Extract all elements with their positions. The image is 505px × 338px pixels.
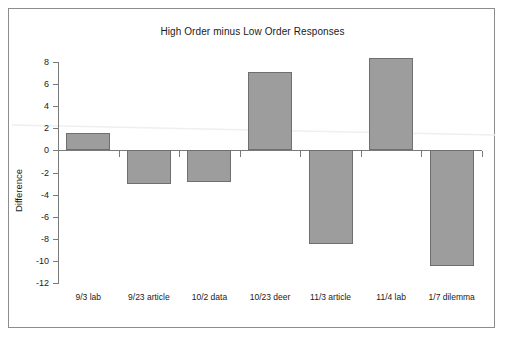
y-axis-tick-label: 0 bbox=[22, 145, 51, 155]
y-axis-tick-label: -12 bbox=[22, 278, 51, 288]
x-axis-tick bbox=[421, 151, 422, 157]
y-axis-tick bbox=[53, 261, 59, 262]
bar bbox=[127, 150, 171, 183]
y-axis-tick bbox=[53, 239, 59, 240]
y-axis-tick bbox=[53, 62, 59, 63]
x-axis-tick-label: 10/2 data bbox=[192, 292, 227, 302]
x-axis-tick bbox=[119, 151, 120, 157]
x-axis-tick-label: 10/23 deer bbox=[250, 292, 291, 302]
y-axis-tick-label: 6 bbox=[22, 79, 51, 89]
y-axis-tick bbox=[53, 84, 59, 85]
x-axis-tick bbox=[300, 151, 301, 157]
y-axis-tick-label: 4 bbox=[22, 101, 51, 111]
x-axis-tick-label: 1/7 dilemma bbox=[429, 292, 475, 302]
y-axis-tick-label: -4 bbox=[22, 190, 51, 200]
bar bbox=[309, 150, 353, 244]
x-axis-tick-label: 9/3 lab bbox=[76, 292, 102, 302]
y-axis-tick-label: 2 bbox=[22, 123, 51, 133]
x-axis-tick bbox=[58, 151, 59, 157]
y-axis-tick-label: 8 bbox=[22, 57, 51, 67]
x-axis-tick bbox=[361, 151, 362, 157]
y-axis-tick bbox=[53, 106, 59, 107]
y-axis-tick bbox=[53, 217, 59, 218]
bar bbox=[187, 150, 231, 182]
y-axis-tick-label: -2 bbox=[22, 168, 51, 178]
y-axis-tick bbox=[53, 173, 59, 174]
y-axis-tick-label: -8 bbox=[22, 234, 51, 244]
x-axis-tick bbox=[482, 151, 483, 157]
bar bbox=[248, 72, 292, 150]
chart-figure: High Order minus Low Order Responses 864… bbox=[0, 0, 505, 338]
y-axis-tick-label: -10 bbox=[22, 256, 51, 266]
y-axis-tick bbox=[53, 195, 59, 196]
x-axis-tick bbox=[179, 151, 180, 157]
x-axis-tick-label: 9/23 article bbox=[128, 292, 170, 302]
y-axis-tick bbox=[53, 283, 59, 284]
bar bbox=[369, 58, 413, 151]
bar bbox=[430, 150, 474, 266]
x-axis-tick bbox=[240, 151, 241, 157]
plot-area: 86420-2-4-6-8-10-12 9/3 lab9/23 article1… bbox=[0, 0, 505, 338]
y-axis-tick-label: -6 bbox=[22, 212, 51, 222]
bar bbox=[66, 133, 110, 151]
x-axis-tick-label: 11/4 lab bbox=[376, 292, 406, 302]
y-axis-label: Difference bbox=[13, 151, 24, 231]
y-axis-tick bbox=[53, 128, 59, 129]
x-axis-tick-label: 11/3 article bbox=[310, 292, 351, 302]
